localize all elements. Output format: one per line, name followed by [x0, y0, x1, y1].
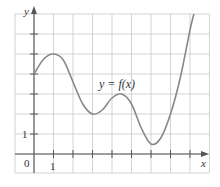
y-axis-label: y	[24, 6, 29, 17]
curve-label: y = f(x)	[99, 79, 135, 90]
grid-lines	[15, 14, 210, 173]
y-tick-label-1: 1	[22, 129, 28, 140]
y-axis-arrow-icon	[31, 6, 37, 14]
function-graph	[0, 0, 220, 187]
x-axis-label: x	[201, 158, 206, 169]
origin-label: 0	[24, 158, 30, 169]
axis-ticks	[30, 34, 190, 158]
x-tick-label-1: 1	[50, 161, 56, 172]
